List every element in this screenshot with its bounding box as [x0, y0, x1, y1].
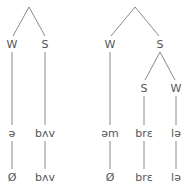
- surface-syllable: Ø: [8, 172, 17, 183]
- branch-line: [111, 7, 135, 36]
- underlying-syllable: bʌv: [35, 128, 55, 139]
- branch-line: [135, 7, 159, 36]
- underlying-syllable: əm: [101, 128, 118, 139]
- underlying-syllable: ə: [9, 128, 16, 139]
- branch-line: [160, 52, 175, 80]
- node-strong: S: [42, 39, 49, 50]
- branch-line: [13, 7, 29, 36]
- surface-syllable: brɛ: [135, 172, 152, 183]
- surface-syllable: lə: [171, 172, 181, 183]
- surface-syllable: Ø: [106, 172, 115, 183]
- underlying-syllable: brɛ: [135, 128, 152, 139]
- branch-line: [145, 52, 160, 80]
- branch-line: [29, 7, 45, 36]
- node-weak: W: [105, 39, 116, 50]
- node-weak: W: [171, 83, 182, 94]
- node-strong: S: [157, 39, 164, 50]
- node-weak: W: [7, 39, 18, 50]
- node-strong: S: [141, 83, 148, 94]
- underlying-syllable: lə: [171, 128, 181, 139]
- metrical-tree-lines: [0, 0, 188, 189]
- surface-syllable: bʌv: [35, 172, 55, 183]
